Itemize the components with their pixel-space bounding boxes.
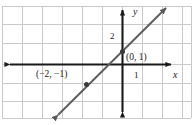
- y-tick-label-2: 2: [110, 32, 115, 41]
- point-label-0-1: (0, 1): [126, 53, 147, 63]
- y-axis-label: y: [133, 7, 137, 17]
- x-axis-label: x: [173, 70, 177, 80]
- data-point-marker-0-1: [120, 49, 125, 54]
- x-tick-label-1: 1: [134, 71, 139, 80]
- plotted-line: [0, 0, 195, 125]
- data-point-marker-neg2-neg1: [84, 82, 89, 87]
- point-label-neg2-neg1: (−2, −1): [36, 70, 67, 80]
- coordinate-graph: y x 2 1 (0, 1) (−2, −1): [0, 0, 195, 125]
- line-series-y-equals-x-plus-1: [58, 8, 166, 115]
